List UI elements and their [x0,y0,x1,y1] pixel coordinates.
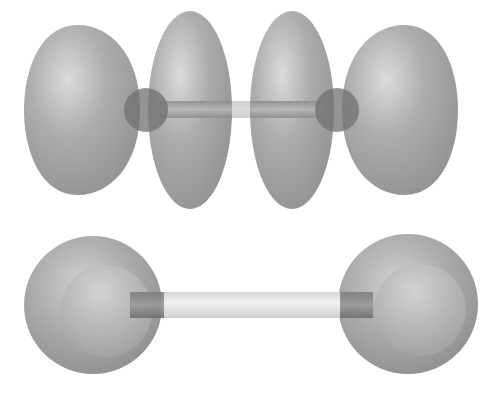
bond-bottom-end-left [130,292,164,318]
bond-bottom-end-right [340,292,373,318]
diagram-canvas [0,0,493,398]
lobe-outer-right [342,25,458,195]
nucleus-right [315,88,359,132]
sphere-right-inner [374,264,466,356]
bond-bottom [163,292,341,318]
bond-top-highlight [232,101,250,118]
nucleus-left [124,88,168,132]
bottom-molecule [24,234,478,374]
molecular-orbital-diagram [0,0,493,398]
lobe-outer-left [24,25,140,195]
top-molecule [24,11,458,209]
